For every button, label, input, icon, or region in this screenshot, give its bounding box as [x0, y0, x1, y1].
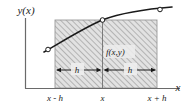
marker-left-icon — [46, 47, 51, 52]
right-span-label: h — [128, 65, 133, 75]
diagram-canvas: h h f(x,y) y(x) x x - h x x + h — [0, 0, 190, 106]
x-axis-label: x — [175, 81, 181, 93]
marker-right-icon — [158, 7, 163, 12]
tick-label-center: x — [100, 93, 105, 103]
marker-center-icon — [100, 18, 105, 23]
left-span-label: h — [75, 65, 80, 75]
tick-label-left: x - h — [46, 93, 63, 103]
tick-label-right: x + h — [146, 93, 167, 103]
function-label: f(x,y) — [106, 47, 125, 57]
y-axis-label: y(x) — [16, 4, 34, 17]
midpoint-interval-diagram: h h f(x,y) y(x) x x - h x x + h — [0, 0, 190, 106]
